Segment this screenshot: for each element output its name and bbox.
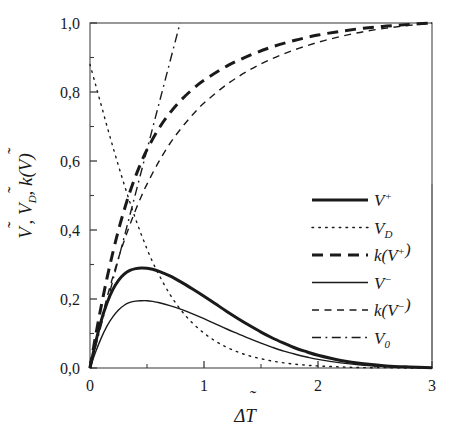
figure-container: 0123 0,00,20,40,60,81,0 ΔT ˜ V , VD, k(V…	[0, 0, 458, 441]
y-tick-label: 0,6	[60, 153, 80, 170]
y-tick-label: 0,4	[60, 222, 80, 239]
y-tick-label: 0,8	[60, 84, 80, 101]
x-tick-label: 3	[428, 377, 436, 394]
x-axis-title-symbol: T	[245, 405, 257, 426]
svg-text:ΔT: ΔT	[233, 405, 257, 426]
line-chart: 0123 0,00,20,40,60,81,0 ΔT ˜ V , VD, k(V…	[0, 0, 458, 441]
y-tick-label: 1,0	[60, 15, 80, 32]
x-tick-label: 0	[86, 377, 94, 394]
x-tick-label: 2	[314, 377, 322, 394]
x-axis-title-delta: Δ	[233, 405, 245, 426]
y-tick-label: 0,2	[60, 291, 80, 308]
x-tick-label: 1	[200, 377, 208, 394]
y-tick-label: 0,0	[60, 360, 80, 377]
